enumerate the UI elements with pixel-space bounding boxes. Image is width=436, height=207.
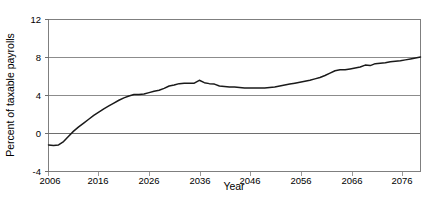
y-tick-label-12: 12 xyxy=(30,14,41,25)
line-chart: 12 8 4 0 -4 2006 2016 2026 2036 2046 205… xyxy=(0,0,436,207)
x-axis-title: Year xyxy=(223,180,245,192)
y-axis-title: Percent of taxable payrolls xyxy=(4,33,16,157)
x-tick-label-2006: 2006 xyxy=(39,175,60,186)
x-tick-label-2036: 2036 xyxy=(189,175,210,186)
x-tick-label-2066: 2066 xyxy=(341,175,362,186)
x-tick-label-2016: 2016 xyxy=(87,175,108,186)
y-tick-label-4: 4 xyxy=(36,90,41,101)
y-tick-label-8: 8 xyxy=(36,52,41,63)
chart-figure: 12 8 4 0 -4 2006 2016 2026 2036 2046 205… xyxy=(0,0,436,207)
chart-background xyxy=(0,0,436,207)
x-tick-label-2026: 2026 xyxy=(138,175,159,186)
y-tick-label-0: 0 xyxy=(36,128,41,139)
x-tick-label-2056: 2056 xyxy=(290,175,311,186)
x-tick-label-2076: 2076 xyxy=(391,175,412,186)
